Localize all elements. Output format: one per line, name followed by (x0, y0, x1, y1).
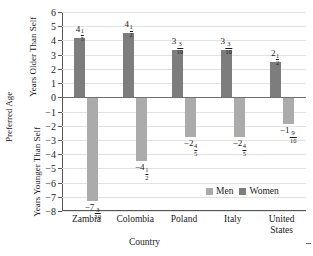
bar-value-men: −1910 (280, 126, 296, 144)
mixed-number: 212 (271, 49, 279, 67)
legend-swatch-women-icon (239, 188, 246, 195)
gridline (62, 112, 306, 113)
bar-value-women: 3310 (172, 37, 183, 55)
bar-value-men: −245 (184, 139, 197, 157)
corner-mark (306, 243, 311, 244)
y-axis-tick (58, 126, 62, 127)
y-axis-tick (58, 12, 62, 13)
bar-value-women: 3310 (221, 37, 232, 55)
bar-value-women: 212 (271, 49, 279, 67)
legend-label-men: Men (216, 186, 233, 196)
fraction: 12 (276, 53, 279, 67)
bar-chart: Preferred Age Years Older Than Self Year… (0, 0, 313, 256)
legend-item-men: Men (206, 186, 233, 196)
x-axis-title: Country (0, 237, 313, 247)
x-axis-category-label: Italy (224, 214, 241, 225)
y-axis-tick (58, 154, 62, 155)
y-axis-lower-caption: Years Younger Than Self (33, 137, 43, 217)
fraction: 310 (226, 41, 232, 55)
mixed-number: −245 (184, 139, 197, 157)
y-axis-tick-label: −4 (45, 149, 56, 160)
bar-value-men: −412 (135, 163, 148, 181)
x-axis-category-label: Colombia (116, 214, 153, 225)
mixed-number: −245 (233, 139, 246, 157)
fraction: 12 (130, 24, 133, 38)
y-axis-tick (58, 69, 62, 70)
gridline (62, 12, 306, 13)
fraction: 45 (243, 143, 246, 157)
legend-label-women: Women (249, 186, 278, 196)
gridline (62, 168, 306, 169)
y-axis-tick-label: 4 (51, 35, 56, 46)
x-axis-category-label: Poland (171, 214, 197, 225)
y-axis-tick-label: −8 (45, 206, 56, 217)
gridline (62, 126, 306, 127)
x-axis-title-text: Country (129, 237, 160, 247)
y-axis-tick (58, 26, 62, 27)
y-axis-tick (58, 40, 62, 41)
mixed-number: 3310 (221, 37, 232, 55)
y-axis-tick-label: 5 (51, 21, 56, 32)
y-axis-tick-label: −3 (45, 134, 56, 145)
y-axis-upper-caption-text: Years Older Than Self (28, 17, 38, 97)
x-axis-category-label: UnitedStates (269, 214, 295, 235)
fraction: 310 (177, 41, 183, 55)
mixed-number: 3310 (172, 37, 183, 55)
bar-men (87, 97, 98, 201)
y-axis-tick (58, 197, 62, 198)
plot-area: 6543210−1−2−3−4−5−6−7−8 415−7310412−4123… (62, 12, 306, 211)
y-axis-tick-label: −1 (45, 106, 56, 117)
mixed-number: −412 (135, 163, 148, 181)
y-axis-tick-label: −6 (45, 177, 56, 188)
gridline (62, 40, 306, 41)
bar-men (185, 97, 196, 137)
bar-women (270, 62, 281, 98)
y-axis-tick-label: 2 (51, 63, 56, 74)
chart-legend: Men Women (206, 186, 279, 196)
legend-swatch-men-icon (206, 188, 213, 195)
bar-men (234, 97, 245, 137)
legend-item-women: Women (239, 186, 278, 196)
bar-men (283, 97, 294, 124)
y-axis-tick (58, 112, 62, 113)
fraction: 12 (145, 167, 148, 181)
y-axis-tick-label: −2 (45, 120, 56, 131)
zero-line (62, 97, 306, 98)
y-axis-lower-caption-text: Years Younger Than Self (32, 127, 42, 217)
y-axis-tick-label: −5 (45, 163, 56, 174)
y-axis-tick (58, 183, 62, 184)
y-axis-tick-label: 0 (51, 92, 56, 103)
mixed-number: 415 (76, 25, 84, 43)
y-axis-upper-caption: Years Older Than Self (29, 25, 39, 97)
y-axis-tick (58, 140, 62, 141)
bar-value-women: 412 (125, 20, 133, 38)
bar-value-men: −245 (233, 139, 246, 157)
fraction: 45 (194, 143, 197, 157)
y-axis-outer-title: Preferred Age (5, 77, 15, 157)
y-axis-tick (58, 168, 62, 169)
fraction: 15 (81, 28, 84, 42)
gridline (62, 26, 306, 27)
bar-women (221, 50, 232, 97)
bar-value-women: 415 (76, 25, 84, 43)
mixed-number: −1910 (280, 126, 296, 144)
y-axis-tick-label: 1 (51, 78, 56, 89)
y-axis-tick (58, 55, 62, 56)
mixed-number: 412 (125, 20, 133, 38)
y-axis-tick-label: 6 (51, 7, 56, 18)
fraction: 910 (290, 130, 296, 144)
gridline (62, 55, 306, 56)
gridline (62, 197, 306, 198)
y-axis-tick-label: −7 (45, 191, 56, 202)
y-axis-tick (58, 83, 62, 84)
gridline (62, 183, 306, 184)
bar-women (172, 50, 183, 97)
bar-women (74, 38, 85, 98)
bar-men (136, 97, 147, 161)
x-axis-category-label: Zambia (72, 214, 101, 225)
y-axis-tick (58, 211, 62, 212)
bar-women (123, 33, 134, 97)
y-axis-tick-label: 3 (51, 49, 56, 60)
